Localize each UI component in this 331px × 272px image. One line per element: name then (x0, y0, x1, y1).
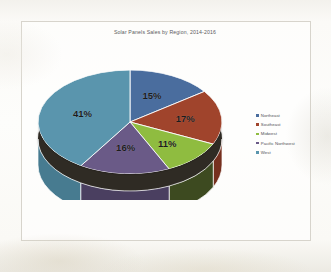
pie-label-northeast: 15% (142, 90, 161, 101)
legend-swatch-icon (256, 133, 259, 136)
chart-title: Solar Panels Sales by Region, 2014-2016 (21, 29, 309, 35)
legend-item-northeast[interactable]: Northeast (256, 113, 308, 118)
pie-label-west: 41% (73, 108, 92, 119)
legend-item-label: Southeast (261, 122, 281, 127)
legend-item-label: West (261, 150, 271, 155)
legend-swatch-icon (256, 123, 259, 126)
legend-item-label: Northeast (261, 113, 280, 118)
legend-item-label: Midwest (261, 131, 277, 136)
legend-item-label: Pacific Northwest (261, 141, 295, 146)
legend-item-pacific-northwest[interactable]: Pacific Northwest (256, 141, 308, 146)
legend-item-west[interactable]: West (256, 150, 308, 155)
chart-legend: NortheastSoutheastMidwestPacific Northwe… (256, 113, 308, 159)
pie-label-southeast: 17% (176, 113, 195, 124)
legend-item-midwest[interactable]: Midwest (256, 131, 308, 136)
legend-swatch-icon (256, 151, 259, 154)
pie-label-midwest: 11% (158, 138, 177, 149)
pie-label-pacific-northwest: 16% (116, 142, 135, 153)
scanned-page: Solar Panels Sales by Region, 2014-2016 … (0, 0, 331, 272)
pie-chart: 15%17%11%16%41% (33, 59, 227, 195)
legend-item-southeast[interactable]: Southeast (256, 122, 308, 127)
legend-swatch-icon (256, 142, 259, 145)
legend-swatch-icon (256, 114, 259, 117)
